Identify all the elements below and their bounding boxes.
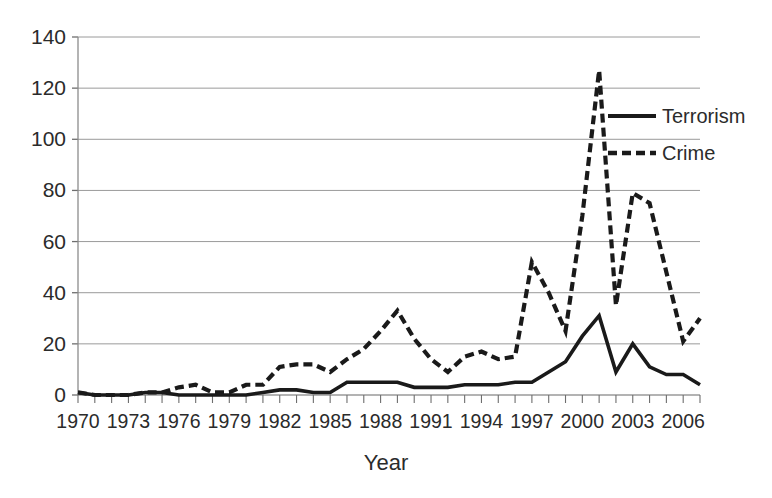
series-line-terrorism bbox=[78, 316, 700, 395]
legend-label-crime: Crime bbox=[662, 143, 715, 163]
y-tick-label: 40 bbox=[8, 282, 66, 303]
data-series-group bbox=[78, 70, 700, 395]
y-tick-label: 120 bbox=[8, 77, 66, 98]
y-tick-label: 100 bbox=[8, 128, 66, 149]
legend-label-terrorism: Terrorism bbox=[662, 106, 745, 126]
y-tick-label: 60 bbox=[8, 231, 66, 252]
x-tick-marks-group bbox=[78, 395, 700, 403]
chart-container: 020406080100120140 197019731976197919821… bbox=[0, 0, 772, 498]
y-tick-label: 0 bbox=[8, 384, 66, 405]
legend-swatches-group bbox=[608, 116, 656, 153]
y-tick-label: 80 bbox=[8, 179, 66, 200]
y-tick-label: 20 bbox=[8, 333, 66, 354]
y-tick-label: 140 bbox=[8, 26, 66, 47]
x-axis-title: Year bbox=[0, 452, 772, 474]
x-tick-label: 2006 bbox=[653, 412, 713, 432]
